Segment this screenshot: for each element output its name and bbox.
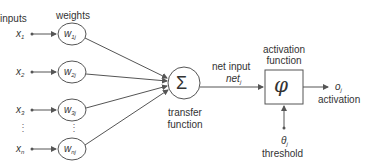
sum-icon: Σ: [176, 73, 187, 93]
weight-w1j: w1j: [64, 28, 76, 43]
weight-wnj: wnj: [64, 143, 76, 158]
input-x1: x1: [16, 28, 24, 43]
activation-function-title-1: activation: [258, 44, 310, 55]
phi-icon: φ: [274, 74, 288, 96]
output-label: activation: [318, 94, 360, 105]
transfer-label-2: function: [164, 119, 206, 130]
input-x3: x3: [16, 104, 24, 119]
threshold-label: threshold: [262, 148, 303, 159]
weights-heading: weights: [56, 10, 90, 21]
activation-function-title-2: function: [258, 55, 310, 66]
transfer-label-1: transfer: [164, 107, 206, 118]
input-x2: x2: [16, 66, 24, 81]
weight-w2j: w2j: [64, 66, 76, 81]
perceptron-diagram: inputs weights x1 x2 x3 xn ⋮ ⋮ w1j w2j w…: [0, 0, 371, 167]
inputs-ellipsis: ⋮: [18, 122, 28, 133]
weights-ellipsis: ⋮: [69, 122, 79, 133]
net-symbol: netj: [226, 73, 241, 88]
inputs-heading: inputs: [0, 13, 27, 24]
weight-w3j: w3j: [64, 104, 76, 119]
input-xn: xn: [16, 143, 24, 158]
net-input-label: net input: [212, 61, 250, 72]
